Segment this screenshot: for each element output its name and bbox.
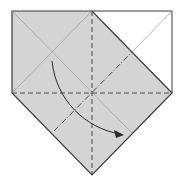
origami-diagram: [0, 0, 178, 184]
